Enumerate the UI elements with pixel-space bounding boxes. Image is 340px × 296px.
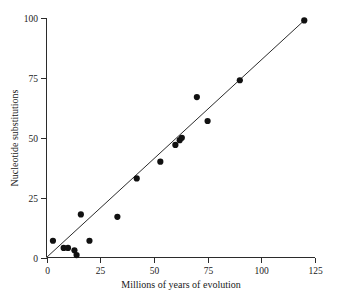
x-axis-title: Millions of years of evolution (121, 279, 240, 290)
regression-line (47, 20, 305, 257)
data-point (65, 245, 71, 251)
data-point (194, 94, 200, 100)
x-tick-label: 100 (254, 266, 269, 276)
data-point (134, 175, 140, 181)
data-point (179, 135, 185, 141)
y-axis-title: Nucleotide substitutions (9, 89, 20, 186)
y-tick-label: 100 (24, 14, 39, 24)
y-tick-label: 0 (33, 254, 38, 264)
scatter-plot-figure: 0255075100 0255075100125 Millions of yea… (0, 0, 340, 296)
x-tick-label: 25 (96, 266, 106, 276)
x-tick-label: 75 (204, 266, 214, 276)
x-tick-label: 50 (150, 266, 160, 276)
y-axis-ticks: 0255075100 (24, 14, 47, 264)
data-point (157, 159, 163, 165)
chart-canvas: 0255075100 0255075100125 Millions of yea… (0, 0, 340, 296)
data-point (301, 17, 307, 23)
data-point (50, 238, 56, 244)
data-point (73, 252, 79, 258)
y-tick-label: 25 (29, 194, 39, 204)
data-point (172, 142, 178, 148)
data-point (237, 77, 243, 83)
y-tick-label: 50 (29, 134, 39, 144)
data-point (86, 238, 92, 244)
data-point (114, 214, 120, 220)
data-point (205, 118, 211, 124)
x-axis-ticks: 0255075100125 (45, 258, 323, 277)
x-tick-label: 125 (308, 266, 323, 276)
x-tick-label: 0 (45, 266, 50, 276)
data-point (78, 211, 84, 217)
y-tick-label: 75 (29, 74, 39, 84)
